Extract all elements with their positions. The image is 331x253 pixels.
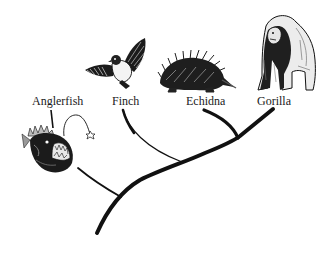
taxon-label-echidna: Echidna — [186, 95, 225, 107]
taxon-label-anglerfish: Anglerfish — [32, 95, 83, 107]
anglerfish-branch — [78, 168, 121, 197]
finch-icon — [85, 38, 146, 89]
echidna-branch — [204, 110, 238, 138]
finch-branch — [123, 110, 182, 162]
taxon-label-gorilla: Gorilla — [257, 95, 291, 107]
taxon-label-finch: Finch — [112, 95, 139, 107]
phylogenetic-tree-diagram: Anglerfish Finch Echidna Gorilla — [0, 0, 331, 253]
echidna-icon — [158, 50, 236, 92]
anglerfish-icon — [22, 110, 95, 172]
tree-branches — [0, 0, 331, 253]
gorilla-icon — [258, 16, 315, 90]
trunk-branch — [97, 109, 273, 233]
